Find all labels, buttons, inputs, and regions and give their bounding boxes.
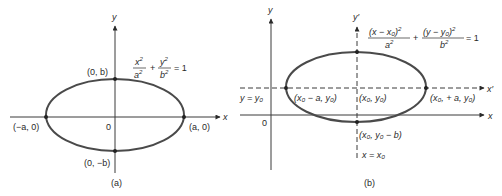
origin-label: 0 xyxy=(106,122,111,132)
caption-a: (a) xyxy=(111,178,122,188)
svg-text:+: + xyxy=(150,63,155,73)
equation-a: x2 a2 + y2 b2 = 1 xyxy=(133,56,187,80)
point-right xyxy=(182,115,186,119)
svg-text:= 1: = 1 xyxy=(174,63,187,73)
panel-b: x y 0 x′ y′ y = y₀ x = x₀ (x₀ − a, y₀) (… xyxy=(239,5,494,188)
y-axis-label: y xyxy=(111,12,117,22)
point-left xyxy=(44,115,48,119)
origin-label: 0 xyxy=(262,118,267,128)
caption-b: (b) xyxy=(364,178,375,188)
label-point-right: (a, 0) xyxy=(189,122,210,132)
label-point-left: (−a, 0) xyxy=(13,122,39,132)
ellipse-diagram: x y 0 (0, b) (0, −b) (−a, 0) (a, 0) x2 a… xyxy=(0,0,502,196)
label-point-left: (x₀ − a, y₀) xyxy=(294,93,337,103)
svg-text:= 1: = 1 xyxy=(466,33,479,43)
panel-a: x y 0 (0, b) (0, −b) (−a, 0) (a, 0) x2 a… xyxy=(10,12,228,188)
label-point-top: (0, b) xyxy=(87,67,108,77)
svg-text:+: + xyxy=(413,33,418,43)
svg-text:(y − y₀)2: (y − y₀)2 xyxy=(423,26,456,37)
svg-text:b2: b2 xyxy=(160,69,169,80)
label-point-right: (x₀, + a, y₀) xyxy=(430,93,475,103)
point-bottom xyxy=(113,149,117,153)
point-bottom xyxy=(355,120,359,124)
xprime-axis-label: x′ xyxy=(486,84,494,94)
svg-text:a2: a2 xyxy=(385,39,394,50)
label-point-bottom: (x₀, y₀ − b) xyxy=(359,130,402,140)
point-top xyxy=(355,50,359,54)
svg-text:x2: x2 xyxy=(134,56,144,67)
point-top xyxy=(113,77,117,81)
label-point-bottom: (0, −b) xyxy=(84,158,110,168)
x-axis-label: x xyxy=(487,111,493,121)
point-right xyxy=(424,86,428,90)
y-axis-label: y xyxy=(267,5,273,15)
line-label-vertical: x = x₀ xyxy=(361,150,385,160)
equation-b: (x − x₀)2 a2 + (y − y₀)2 b2 = 1 xyxy=(368,26,479,50)
svg-text:y2: y2 xyxy=(159,56,169,67)
x-axis-label: x xyxy=(222,112,228,122)
point-left xyxy=(284,86,288,90)
ellipse xyxy=(286,52,426,122)
line-label-horizontal: y = y₀ xyxy=(239,93,263,103)
svg-text:a2: a2 xyxy=(134,69,143,80)
svg-text:(x − x₀)2: (x − x₀)2 xyxy=(369,26,402,37)
yprime-axis-label: y′ xyxy=(352,12,360,22)
label-point-center: (x₀, y₀) xyxy=(359,93,387,103)
svg-text:b2: b2 xyxy=(440,39,449,50)
